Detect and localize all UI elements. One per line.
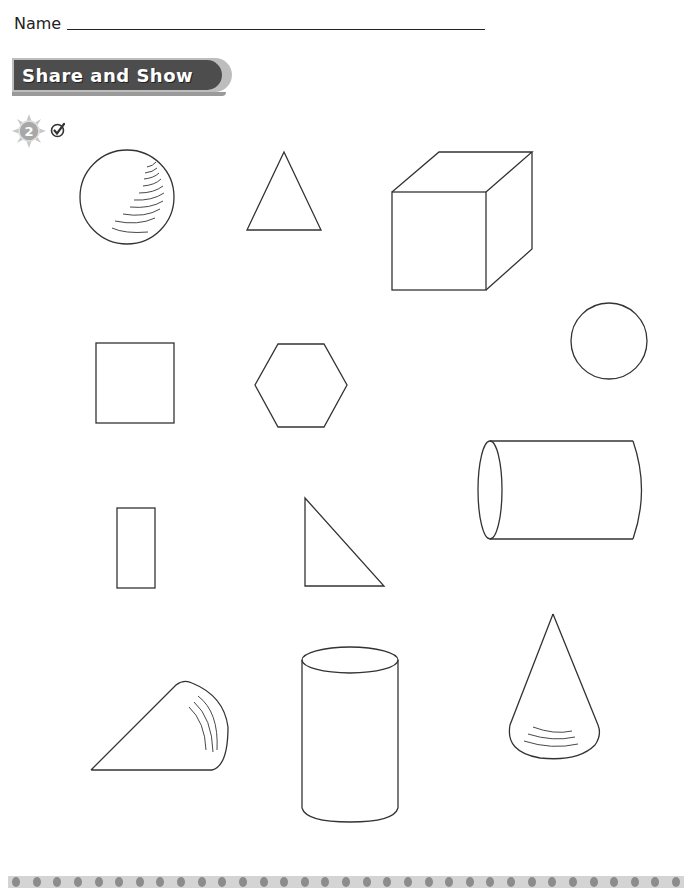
footer-dot-border xyxy=(8,876,684,888)
triangle-shape[interactable] xyxy=(247,152,321,230)
footer-dot xyxy=(383,877,391,887)
footer-dot xyxy=(95,877,103,887)
footer-dot xyxy=(198,877,206,887)
footer-dot xyxy=(12,877,20,887)
footer-dot xyxy=(136,877,144,887)
footer-dot xyxy=(569,877,577,887)
footer-dot xyxy=(486,877,494,887)
footer-dot xyxy=(404,877,412,887)
footer-dot xyxy=(548,877,556,887)
footer-dot xyxy=(651,877,659,887)
footer-dot xyxy=(672,877,680,887)
footer-dot xyxy=(218,877,226,887)
footer-dot xyxy=(631,877,639,887)
footer-dot xyxy=(280,877,288,887)
footer-dot xyxy=(466,877,474,887)
footer-dot xyxy=(53,877,61,887)
footer-dot xyxy=(33,877,41,887)
footer-dot xyxy=(115,877,123,887)
footer-dot xyxy=(507,877,515,887)
footer-dot xyxy=(74,877,82,887)
shapes-canvas xyxy=(0,0,690,892)
upright-cone-shape[interactable] xyxy=(509,614,599,759)
cube-shape[interactable] xyxy=(392,152,532,290)
footer-dot xyxy=(260,877,268,887)
footer-dot xyxy=(342,877,350,887)
footer-dot xyxy=(156,877,164,887)
footer-dot xyxy=(528,877,536,887)
right-triangle-shape[interactable] xyxy=(305,498,384,586)
footer-dot xyxy=(321,877,329,887)
rectangle-shape[interactable] xyxy=(117,508,155,588)
hexagon-shape[interactable] xyxy=(255,344,347,427)
footer-dot xyxy=(590,877,598,887)
square-shape[interactable] xyxy=(96,343,174,423)
sideways-cone-shape[interactable] xyxy=(91,681,228,770)
footer-dot xyxy=(301,877,309,887)
horizontal-cylinder-shape[interactable] xyxy=(478,441,642,539)
sphere-shape[interactable] xyxy=(80,150,174,244)
footer-dot xyxy=(425,877,433,887)
footer-dot xyxy=(610,877,618,887)
vertical-cylinder-shape[interactable] xyxy=(302,647,398,822)
footer-dot xyxy=(177,877,185,887)
footer-dot xyxy=(363,877,371,887)
footer-dot xyxy=(239,877,247,887)
footer-dot xyxy=(445,877,453,887)
circle-shape[interactable] xyxy=(571,303,647,379)
